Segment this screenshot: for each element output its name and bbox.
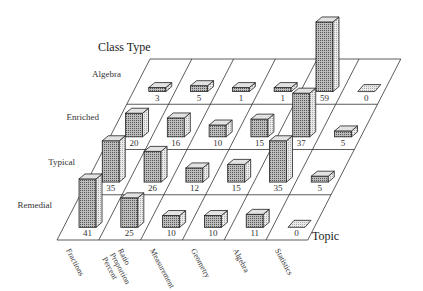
bar-value-label: 35 (106, 183, 116, 193)
bar (358, 85, 381, 92)
bar (269, 136, 292, 182)
bar-value-label: 35 (273, 183, 283, 193)
bar-value-label: 0 (364, 93, 369, 103)
bar (79, 174, 102, 227)
row-axis-title: Class Type (98, 40, 151, 55)
bar (232, 83, 255, 92)
bar (293, 88, 316, 137)
bar-value-label: 26 (148, 183, 158, 193)
bar (335, 126, 358, 137)
bar (144, 146, 167, 182)
row-label-algebra: Algebra (92, 69, 121, 79)
row-label-remedial: Remedial (18, 200, 53, 210)
bar-value-label: 1 (280, 93, 285, 103)
bar (316, 17, 339, 92)
bar (126, 108, 149, 137)
bar-value-label: 3 (155, 93, 160, 103)
bar-value-label: 16 (171, 138, 181, 148)
bar-value-label: 41 (83, 228, 92, 238)
bar (163, 211, 186, 228)
bar (246, 209, 269, 227)
bar (102, 136, 125, 182)
bar (149, 83, 172, 92)
bar-value-label: 59 (320, 93, 330, 103)
bar-value-label: 10 (167, 228, 177, 238)
bar (121, 193, 144, 228)
bar-value-label: 11 (250, 228, 259, 238)
bar-value-label: 20 (130, 138, 140, 148)
bar-value-label: 15 (255, 138, 265, 148)
bar (228, 159, 251, 182)
row-label-typical: Typical (48, 157, 75, 167)
bar-value-label: 15 (232, 183, 242, 193)
bar-value-label: 0 (294, 228, 299, 238)
bar-value-label: 10 (213, 138, 223, 148)
bar (167, 113, 190, 137)
bar (191, 81, 214, 92)
bar-value-label: 1 (239, 93, 244, 103)
bar (288, 220, 311, 227)
bar (186, 163, 209, 182)
bar (311, 171, 334, 182)
bar-value-label: 37 (297, 138, 307, 148)
col-axis-title: Topic (312, 229, 339, 244)
row-label-enriched: Enriched (67, 112, 99, 122)
bar (209, 120, 232, 137)
bar-value-label: 25 (125, 228, 135, 238)
bar (274, 83, 297, 92)
bar-value-label: 12 (190, 183, 199, 193)
bar3d-chart: 3511590201610153753526121535541251010110 (0, 0, 423, 291)
bar-value-label: 10 (208, 228, 218, 238)
bar-value-label: 5 (318, 183, 323, 193)
bar (204, 211, 227, 228)
bar (251, 114, 274, 137)
bar-value-label: 5 (197, 93, 202, 103)
bar-value-label: 5 (341, 138, 346, 148)
